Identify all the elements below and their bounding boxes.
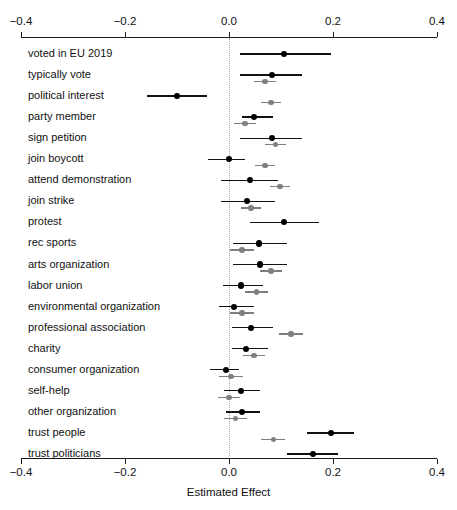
point-estimate-series_1 [281,51,287,57]
point-estimate-series_1 [269,135,275,141]
point-estimate-series_1 [256,240,262,246]
axis-tick [229,32,230,37]
point-estimate-series_2 [226,395,231,400]
point-estimate-series_1 [251,114,257,120]
axis-tick-label: −0.2 [100,15,150,27]
axis-tick-label: 0.4 [412,466,457,478]
point-estimate-series_2 [262,79,267,84]
point-estimate-series_2 [268,268,273,273]
point-estimate-series_2 [288,331,293,336]
confidence-interval-series_1 [232,348,268,349]
axis-tick-label: 0.0 [204,15,254,27]
point-estimate-series_2 [277,184,282,189]
axis-tick [21,32,22,37]
point-estimate-series_1 [310,451,316,457]
axis-tick-label: 0.2 [308,15,358,27]
axis-tick-label: 0.4 [412,15,457,27]
axis-tick-label: −0.4 [0,15,46,27]
point-estimate-series_2 [248,205,253,210]
row-label: labor union [28,280,218,291]
row-label: join strike [28,195,218,206]
axis-tick-label: −0.4 [0,466,46,478]
row-label: sign petition [28,132,218,143]
axis-tick [333,459,334,464]
row-label: environmental organization [28,301,218,312]
axis-tick [229,459,230,464]
point-estimate-series_1 [248,325,254,331]
forest-plot: −0.4−0.20.00.20.4 voted in EU 2019typica… [0,0,457,510]
axis-tick-label: 0.0 [204,466,254,478]
row-label: attend demonstration [28,174,218,185]
row-label: trust people [28,427,218,438]
point-estimate-series_1 [231,304,237,310]
point-estimate-series_1 [257,261,263,267]
x-axis-label: Estimated Effect [0,486,457,498]
row-label: voted in EU 2019 [28,48,218,59]
axis-tick-label: −0.2 [100,466,150,478]
point-estimate-series_1 [328,430,334,436]
point-estimate-series_1 [223,367,229,373]
point-estimate-series_1 [243,346,249,352]
row-label: protest [28,216,218,227]
row-label: other organization [28,406,218,417]
row-label: professional association [28,322,218,333]
confidence-interval-series_1 [242,116,273,117]
point-estimate-series_2 [251,353,256,358]
row-label: rec sports [28,237,218,248]
axis-tick [125,32,126,37]
axis-tick [437,32,438,37]
point-estimate-series_1 [269,72,275,78]
axis-tick [125,459,126,464]
axis-tick [333,32,334,37]
point-estimate-series_2 [228,374,233,379]
row-label: arts organization [28,259,218,270]
point-estimate-series_2 [233,416,238,421]
row-label: self-help [28,385,218,396]
row-label: charity [28,343,218,354]
axis-tick-label: 0.2 [308,466,358,478]
row-label: party member [28,111,218,122]
point-estimate-series_1 [244,198,250,204]
point-estimate-series_1 [238,282,244,288]
zero-reference-line [229,38,230,456]
row-label: consumer organization [28,364,218,375]
point-estimate-series_1 [247,177,253,183]
point-estimate-series_1 [226,156,232,162]
point-estimate-series_1 [281,219,287,225]
point-estimate-series_2 [268,100,273,105]
point-estimate-series_2 [239,247,244,252]
axis-tick [437,459,438,464]
point-estimate-series_1 [238,388,244,394]
point-estimate-series_2 [239,310,244,315]
point-estimate-series_1 [239,409,245,415]
point-estimate-series_2 [262,163,267,168]
point-estimate-series_2 [273,142,278,147]
point-estimate-series_2 [271,437,276,442]
point-estimate-series_2 [254,289,259,294]
row-label: join boycott [28,153,218,164]
axis-tick [21,459,22,464]
point-estimate-series_2 [242,121,247,126]
row-label: typically vote [28,69,218,80]
